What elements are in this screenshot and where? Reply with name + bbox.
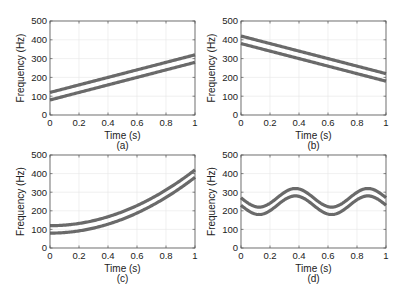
y-tick-label: 0	[233, 109, 238, 120]
y-tick-label: 300	[222, 53, 238, 64]
subplot-caption: (c)	[117, 273, 129, 284]
y-tick-label: 200	[222, 72, 238, 83]
plot-area	[50, 155, 195, 248]
y-tick-label: 400	[31, 34, 47, 45]
y-tick-label: 400	[222, 34, 238, 45]
y-tick-label: 500	[31, 149, 47, 160]
y-tick-label: 100	[31, 224, 47, 235]
plot-area	[241, 155, 386, 248]
x-tick-label: 0.8	[159, 250, 172, 261]
subplot-caption: (a)	[116, 140, 128, 151]
y-tick-label: 500	[222, 149, 238, 160]
x-tick-label: 0.4	[101, 250, 114, 261]
figure: 00.20.40.60.810100200300400500Time (s)(a…	[0, 0, 408, 298]
x-tick-label: 1	[192, 117, 197, 128]
y-tick-label: 200	[31, 205, 47, 216]
y-tick-label: 100	[222, 224, 238, 235]
y-tick-label: 500	[222, 15, 238, 26]
x-tick-label: 1	[383, 250, 388, 261]
x-tick-label: 0.2	[263, 250, 276, 261]
x-tick-label: 0.2	[263, 117, 276, 128]
subplot-d: 00.20.40.60.810100200300400500Time (s)(d…	[206, 149, 389, 284]
x-tick-label: 0.4	[292, 117, 305, 128]
x-tick-label: 0.8	[350, 250, 363, 261]
x-tick-label: 0.2	[72, 117, 85, 128]
y-tick-label: 500	[31, 15, 47, 26]
y-tick-label: 0	[42, 242, 47, 253]
x-tick-label: 1	[383, 117, 388, 128]
y-tick-label: 200	[31, 72, 47, 83]
x-tick-label: 0.4	[292, 250, 305, 261]
y-tick-label: 100	[222, 91, 238, 102]
x-tick-label: 0.6	[130, 117, 143, 128]
x-tick-label: 0.6	[321, 117, 334, 128]
x-tick-label: 0	[238, 117, 243, 128]
subplot-caption: (d)	[307, 273, 319, 284]
y-tick-label: 200	[222, 205, 238, 216]
x-tick-label: 0	[238, 250, 243, 261]
subplot-a: 00.20.40.60.810100200300400500Time (s)(a…	[15, 15, 198, 151]
x-tick-label: 0.6	[321, 250, 334, 261]
subplot-caption: (b)	[307, 140, 319, 151]
y-tick-label: 100	[31, 91, 47, 102]
y-axis-label: Frequency (Hz)	[15, 167, 26, 236]
y-axis-label: Frequency (Hz)	[206, 167, 217, 236]
subplot-b: 00.20.40.60.810100200300400500Time (s)(b…	[206, 15, 389, 151]
y-axis-label: Frequency (Hz)	[15, 34, 26, 103]
y-tick-label: 300	[31, 53, 47, 64]
y-axis-label: Frequency (Hz)	[206, 34, 217, 103]
x-tick-label: 0	[47, 117, 52, 128]
x-tick-label: 0	[47, 250, 52, 261]
y-tick-label: 400	[31, 168, 47, 179]
subplot-c: 00.20.40.60.810100200300400500Time (s)(c…	[15, 149, 198, 284]
y-tick-label: 0	[42, 109, 47, 120]
x-tick-label: 0.2	[72, 250, 85, 261]
x-tick-label: 1	[192, 250, 197, 261]
x-tick-label: 0.4	[101, 117, 114, 128]
y-tick-label: 0	[233, 242, 238, 253]
x-tick-label: 0.8	[350, 117, 363, 128]
y-tick-label: 300	[222, 187, 238, 198]
y-tick-label: 400	[222, 168, 238, 179]
x-tick-label: 0.6	[130, 250, 143, 261]
x-tick-label: 0.8	[159, 117, 172, 128]
y-tick-label: 300	[31, 187, 47, 198]
